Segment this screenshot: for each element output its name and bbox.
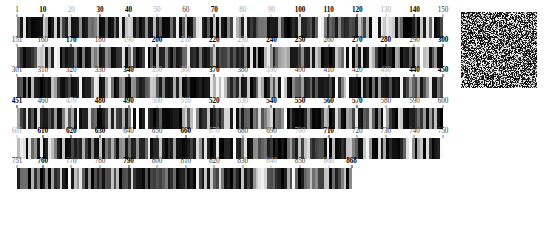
tick-label: 450 [438, 66, 448, 74]
tick-label: 500 [152, 97, 162, 105]
tick-label: 800 [152, 157, 162, 165]
tick-label: 850 [295, 157, 305, 165]
tick-label: 790 [123, 157, 133, 165]
tick-label: 230 [238, 36, 248, 44]
tick-label: 210 [180, 36, 190, 44]
tick-label: 868 [346, 157, 356, 165]
barcode-row-4: 4514604704804905005105205305405505605705… [0, 97, 450, 108]
tick-label: 220 [209, 36, 219, 44]
tick-label: 620 [66, 127, 76, 135]
tick-label: 680 [238, 127, 248, 135]
barcode-row-3: 3013103203303403503603703803904004104204… [0, 66, 450, 77]
tick-label: 60 [182, 6, 189, 14]
tick-label: 700 [295, 127, 305, 135]
tick-label: 280 [381, 36, 391, 44]
tick-label: 301 [12, 66, 22, 74]
tick-label: 151 [12, 36, 22, 44]
barcode-bars-6 [17, 168, 352, 189]
tick-label: 451 [12, 97, 22, 105]
tick-label: 290 [409, 36, 419, 44]
bar [440, 17, 443, 38]
tick-label: 70 [211, 6, 218, 14]
tick-label: 670 [209, 127, 219, 135]
tick-label: 260 [323, 36, 333, 44]
tick-label: 140 [409, 6, 419, 14]
tick-label: 540 [266, 97, 276, 105]
tick-label: 440 [409, 66, 419, 74]
tick-label: 40 [125, 6, 132, 14]
tick-label: 400 [295, 66, 305, 74]
tick-label: 360 [180, 66, 190, 74]
tick-label: 480 [95, 97, 105, 105]
tick-label: 330 [95, 66, 105, 74]
tick-label: 50 [154, 6, 161, 14]
tick-label: 730 [381, 127, 391, 135]
tick-label: 150 [438, 6, 448, 14]
barcode-panel: 1102030405060708090100110120130140150151… [0, 0, 450, 241]
barcode-bars-5 [17, 138, 443, 159]
axis-5: 6016106206306406506606706806907007107207… [0, 127, 450, 138]
bar [440, 47, 443, 68]
tick-label: 710 [323, 127, 333, 135]
tick-label: 10 [39, 6, 46, 14]
bar [440, 77, 443, 98]
tick-label: 520 [209, 97, 219, 105]
tick-label: 120 [352, 6, 362, 14]
tick-label: 410 [323, 66, 333, 74]
tick-label: 180 [95, 36, 105, 44]
tick-label: 810 [180, 157, 190, 165]
tick-label: 590 [409, 97, 419, 105]
tick-label: 250 [295, 36, 305, 44]
tick-label: 840 [266, 157, 276, 165]
barcode-row-2: 1511601701801902002102202302402502602702… [0, 36, 450, 47]
barcode-row-1: 1102030405060708090100110120130140150 [0, 6, 450, 17]
tick-label: 860 [323, 157, 333, 165]
tick-label: 780 [95, 157, 105, 165]
tick-label: 750 [438, 127, 448, 135]
axis-6: 751760770780790800810820830840850860868 [0, 157, 450, 168]
tick-label: 430 [381, 66, 391, 74]
noise-image [461, 12, 537, 88]
tick-label: 470 [66, 97, 76, 105]
tick-label: 200 [152, 36, 162, 44]
tick-label: 550 [295, 97, 305, 105]
tick-label: 820 [209, 157, 219, 165]
barcode-row-5: 6016106206306406506606706806907007107207… [0, 127, 450, 138]
tick-label: 320 [66, 66, 76, 74]
barcode-bars-3 [17, 77, 443, 98]
axis-2: 1511601701801902002102202302402502602702… [0, 36, 450, 47]
bar [349, 168, 352, 189]
tick-label: 460 [37, 97, 47, 105]
tick-label: 601 [12, 127, 22, 135]
tick-label: 660 [180, 127, 190, 135]
tick-label: 390 [266, 66, 276, 74]
tick-label: 1 [15, 6, 19, 14]
tick-label: 300 [438, 36, 448, 44]
barcode-bars-1 [17, 17, 443, 38]
noise-canvas [461, 12, 537, 88]
tick-label: 130 [381, 6, 391, 14]
tick-label: 630 [95, 127, 105, 135]
barcode-bars-2 [17, 47, 443, 68]
tick-label: 830 [238, 157, 248, 165]
tick-label: 510 [180, 97, 190, 105]
tick-label: 420 [352, 66, 362, 74]
axis-1: 1102030405060708090100110120130140150 [0, 6, 450, 17]
tick-label: 370 [209, 66, 219, 74]
tick-label: 190 [123, 36, 133, 44]
tick-label: 720 [352, 127, 362, 135]
tick-label: 570 [352, 97, 362, 105]
tick-label: 560 [323, 97, 333, 105]
tick-label: 580 [381, 97, 391, 105]
tick-label: 270 [352, 36, 362, 44]
tick-label: 530 [238, 97, 248, 105]
tick-label: 610 [37, 127, 47, 135]
tick-label: 760 [37, 157, 47, 165]
tick-label: 100 [295, 6, 305, 14]
bar [440, 108, 443, 129]
barcode-bars-4 [17, 108, 443, 129]
tick-label: 110 [324, 6, 334, 14]
bar [440, 138, 443, 159]
tick-label: 650 [152, 127, 162, 135]
barcode-row-6: 751760770780790800810820830840850860868 [0, 157, 450, 168]
